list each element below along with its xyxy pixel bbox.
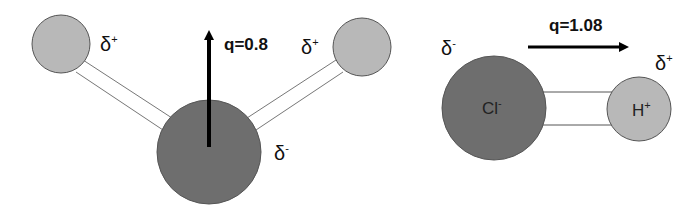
molecular-dipole-diagram: q=0.8 δ+ δ+ δ- Cl- H+ q=1.08 δ- δ+ xyxy=(0,0,700,213)
hydrogen-atom-right xyxy=(333,18,391,76)
hydrogen-atom-left xyxy=(32,15,90,73)
partial-charge-oxygen: δ- xyxy=(274,142,289,164)
hcl-bond xyxy=(540,92,614,125)
partial-charge-hydrogen: δ+ xyxy=(655,52,673,74)
hcl-dipole-label: q=1.08 xyxy=(549,16,602,35)
water-bond-right xyxy=(247,60,343,130)
water-molecule: q=0.8 δ+ δ+ δ- xyxy=(32,15,391,204)
water-dipole-label: q=0.8 xyxy=(224,35,268,54)
partial-charge-h-right: δ+ xyxy=(301,36,319,58)
partial-charge-chlorine: δ- xyxy=(441,37,456,59)
water-bond-left xyxy=(76,60,172,130)
hcl-molecule: Cl- H+ q=1.08 δ- δ+ xyxy=(441,16,673,160)
partial-charge-h-left: δ+ xyxy=(100,33,118,55)
